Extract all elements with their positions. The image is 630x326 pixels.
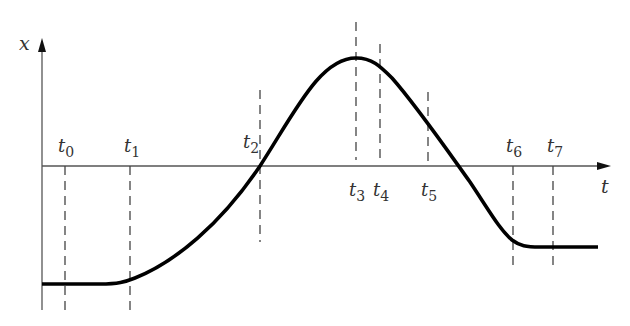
label-t5: t5 — [421, 179, 437, 204]
x-axis-arrow-icon — [38, 38, 46, 52]
time-marker-lines — [65, 22, 553, 312]
label-t3: t3 — [349, 179, 365, 204]
t-axis-arrow-icon — [597, 162, 611, 170]
t-axis-label: t — [601, 175, 609, 197]
x-axis-label: x — [19, 32, 30, 54]
label-t4: t4 — [373, 179, 389, 204]
time-marker-labels: t0 t1 t2 t3 t4 t5 t6 t7 — [58, 131, 563, 204]
label-t2: t2 — [243, 131, 259, 156]
position-time-diagram: x t t0 t1 t2 t3 t4 t5 t6 t7 — [0, 0, 630, 326]
label-t0: t0 — [58, 135, 74, 160]
label-t6: t6 — [506, 135, 522, 160]
label-t7: t7 — [547, 135, 563, 160]
position-curve — [42, 58, 598, 284]
label-t1: t1 — [124, 135, 140, 160]
